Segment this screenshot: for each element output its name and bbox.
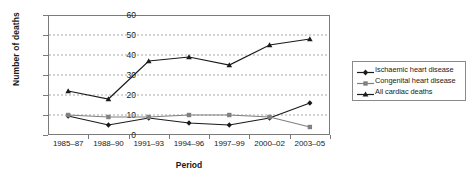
data-point-diamond [106, 122, 111, 128]
legend-marker-square-icon [356, 75, 375, 86]
series-2 [65, 36, 312, 101]
legend-label-1: Congenital heart disease [375, 76, 456, 85]
legend-marker-diamond-icon [356, 64, 375, 75]
series-line [68, 39, 310, 99]
data-point-triangle [65, 88, 71, 93]
data-point-square [187, 113, 191, 117]
data-point-diamond [186, 120, 191, 126]
data-point-diamond [227, 122, 232, 128]
data-point-diamond [307, 100, 312, 106]
data-point-square [308, 125, 312, 129]
data-point-square [147, 115, 151, 119]
legend: Ischaemic heart disease Congenital heart… [352, 61, 466, 101]
gridlines [49, 35, 329, 115]
legend-item-0[interactable]: Ischaemic heart disease [356, 64, 462, 75]
data-point-square [106, 115, 110, 119]
legend-marker-triangle-icon [356, 86, 375, 97]
chart-container: Number of deaths Period 6050403020100 19… [0, 0, 469, 178]
data-point-square [267, 115, 271, 119]
legend-item-2[interactable]: All cardiac deaths [356, 86, 462, 97]
data-point-square [66, 113, 70, 117]
legend-label-0: Ischaemic heart disease [375, 65, 454, 74]
legend-item-1[interactable]: Congenital heart disease [356, 75, 462, 86]
legend-label-2: All cardiac deaths [375, 87, 432, 96]
data-point-square [227, 113, 231, 117]
